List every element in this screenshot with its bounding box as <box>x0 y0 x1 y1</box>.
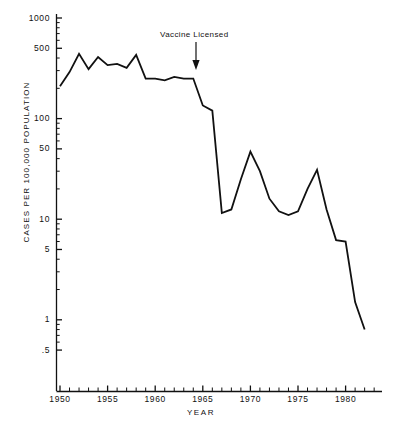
incidence-line <box>60 54 365 330</box>
y-tick-label: 1000 <box>16 13 50 23</box>
x-tick-label: 1950 <box>40 394 80 404</box>
y-tick-label: 1 <box>16 314 50 324</box>
x-axis-ticks <box>60 386 374 392</box>
chart-axes <box>57 14 383 392</box>
x-tick-label: 1980 <box>326 394 366 404</box>
y-tick-label: .5 <box>16 345 50 355</box>
y-axis-title: CASES PER 100,000 POPULATION <box>22 103 31 243</box>
chart-plot-area <box>0 0 402 434</box>
x-axis-title: YEAR <box>0 408 402 417</box>
x-tick-label: 1955 <box>88 394 128 404</box>
vaccine-arrow-icon <box>192 42 199 70</box>
vaccine-licensed-annotation: Vaccine Licensed <box>160 30 229 39</box>
y-axis-ticks <box>57 18 63 350</box>
measles-incidence-chart: 1000500100501051.5 195019551960196519701… <box>0 0 402 434</box>
x-tick-label: 1975 <box>278 394 318 404</box>
y-tick-label: 500 <box>16 43 50 53</box>
x-tick-label: 1970 <box>230 394 270 404</box>
x-tick-label: 1960 <box>135 394 175 404</box>
y-tick-label: 5 <box>16 244 50 254</box>
x-tick-label: 1965 <box>183 394 223 404</box>
